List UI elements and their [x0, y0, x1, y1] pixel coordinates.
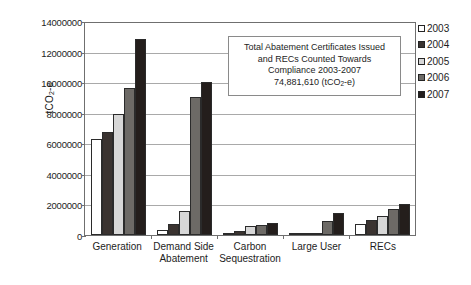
x-axis-category-line: Carbon: [217, 241, 283, 253]
legend-label: 2006: [427, 72, 449, 83]
y-axis-tick-mark: [82, 236, 86, 237]
y-axis-tick-label: 8000000: [8, 108, 82, 119]
y-axis-tick-label: 10000000: [8, 78, 82, 89]
bar: [113, 114, 124, 235]
legend-label: 2005: [427, 56, 449, 67]
x-axis-category-line: Large User: [283, 241, 349, 253]
x-axis-tick-mark: [349, 235, 350, 239]
annotation-line-2: and RECs Counted Towards: [235, 54, 394, 66]
y-axis-tick-label: 14000000: [8, 17, 82, 28]
x-axis-category-label: Generation: [84, 240, 150, 274]
bar: [322, 221, 333, 235]
bar: [366, 220, 377, 235]
x-axis-labels: GenerationDemand SideAbatementCarbonSequ…: [84, 240, 416, 274]
annotation-line-1: Total Abatement Certificates Issued: [235, 42, 394, 54]
legend-label: 2003: [427, 23, 449, 34]
bar: [311, 233, 322, 235]
x-axis-category-label: Demand SideAbatement: [150, 240, 216, 274]
annotation-line-3: Compliance 2003-2007: [235, 65, 394, 77]
y-axis-ticks: 1400000012000000100000008000000600000040…: [4, 22, 82, 236]
legend-item-2004[interactable]: 2004: [418, 37, 468, 54]
x-axis-category-line: RECs: [350, 241, 416, 253]
y-axis-tick-label: 2000000: [8, 200, 82, 211]
bar: [201, 82, 212, 235]
legend-swatch-icon: [418, 74, 425, 81]
y-axis-tick-label: 6000000: [8, 139, 82, 150]
y-axis-tick-label: 12000000: [8, 47, 82, 58]
bar: [377, 216, 388, 235]
y-axis-tick-label: 4000000: [8, 169, 82, 180]
legend: 20032004200520062007: [418, 20, 468, 103]
bar: [267, 223, 278, 235]
x-axis-category-line: Sequestration: [217, 253, 283, 265]
x-axis-tick-mark: [151, 235, 152, 239]
bar: [333, 213, 344, 235]
legend-item-2005[interactable]: 2005: [418, 53, 468, 70]
bar: [179, 211, 190, 235]
bar: [168, 224, 179, 235]
x-axis-category-line: Generation: [84, 241, 150, 253]
legend-item-2007[interactable]: 2007: [418, 86, 468, 103]
annotation-unit-suffix: -e): [344, 77, 355, 87]
bar: [300, 233, 311, 235]
bar: [289, 233, 300, 235]
legend-swatch-icon: [418, 41, 425, 48]
x-axis-category-line: Demand Side: [150, 241, 216, 253]
legend-item-2006[interactable]: 2006: [418, 70, 468, 87]
x-axis-tick-mark: [217, 235, 218, 239]
x-axis-category-line: Abatement: [150, 253, 216, 265]
legend-swatch-icon: [418, 25, 425, 32]
bar-chart: tCO2-e 140000001200000010000000800000060…: [0, 0, 471, 285]
bar: [234, 231, 245, 235]
bar: [157, 230, 168, 235]
bar: [256, 225, 267, 235]
x-axis-tick-mark: [283, 235, 284, 239]
bar: [388, 209, 399, 235]
bar: [91, 139, 102, 235]
annotation-line-4: 74,881,610 (tCO2-e): [235, 77, 394, 90]
bar: [124, 88, 135, 235]
bar: [223, 233, 234, 235]
bar: [245, 226, 256, 235]
legend-item-2003[interactable]: 2003: [418, 20, 468, 37]
bar: [102, 132, 113, 235]
legend-swatch-icon: [418, 58, 425, 65]
x-axis-category-label: Large User: [283, 240, 349, 274]
bar-group: [85, 22, 151, 235]
legend-label: 2004: [427, 39, 449, 50]
legend-swatch-icon: [418, 91, 425, 98]
x-axis-category-label: CarbonSequestration: [217, 240, 283, 274]
bar: [355, 224, 366, 235]
bar: [135, 39, 146, 235]
bar: [190, 97, 201, 235]
bar-group: [151, 22, 217, 235]
bar: [399, 204, 410, 235]
y-axis-tick-label: 0: [8, 231, 82, 242]
x-axis-category-label: RECs: [350, 240, 416, 274]
legend-label: 2007: [427, 89, 449, 100]
annotation-box: Total Abatement Certificates Issued and …: [228, 36, 401, 96]
annotation-total-value: 74,881,610 (tCO: [274, 77, 341, 87]
